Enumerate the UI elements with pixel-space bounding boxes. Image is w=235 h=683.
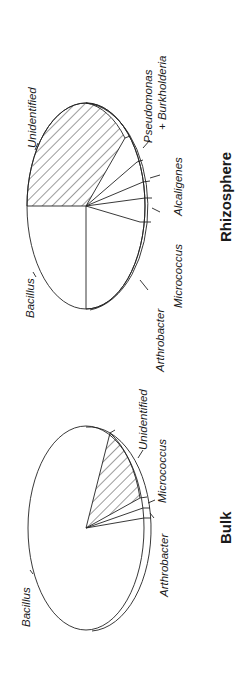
rim-tick (125, 136, 130, 138)
leader-line (150, 175, 160, 178)
bulk-slice-unidentified (86, 433, 140, 528)
rim-tick (143, 181, 150, 182)
leader-line (138, 450, 143, 458)
rhizosphere-slice-unidentified (27, 103, 125, 206)
pie-charts-figure: Unidentified Bacillus Pseudomonas + Burk… (0, 0, 235, 683)
bulk-title: Bulk (217, 511, 234, 544)
rhizosphere-title: Rhizosphere (217, 152, 234, 242)
rhizosphere-label-micrococcus: Micrococcus (172, 244, 184, 308)
rhizosphere-label-burkholderia: + Burkholderia (156, 56, 168, 130)
leader-line (30, 570, 33, 574)
rhizosphere-label-bacillus: Bacillus (24, 278, 36, 318)
rhizosphere-label-arthrobacter: Arthrobacter (154, 308, 166, 373)
rhizosphere-label-alcaligenes: Alcaligenes (172, 157, 184, 217)
bulk-pie: Unidentified Micrococcus Arthrobacter Ba… (20, 389, 234, 631)
rhizosphere-divider-micrococcus-arthrobacter-b (86, 206, 140, 222)
rim-tick (110, 430, 115, 433)
leader-line (152, 208, 160, 212)
bulk-label-unidentified: Unidentified (137, 389, 149, 450)
bulk-label-micrococcus: Micrococcus (156, 439, 168, 503)
rhizosphere-pie: Unidentified Bacillus Pseudomonas + Burk… (24, 56, 234, 373)
bulk-label-arthrobacter: Arthrobacter (158, 533, 170, 598)
leader-line (140, 280, 148, 290)
bulk-label-bacillus: Bacillus (20, 587, 32, 627)
rhizosphere-label-pseudomonas: Pseudomonas (142, 69, 154, 143)
rim-tick (137, 160, 143, 162)
rhizosphere-label-unidentified: Unidentified (26, 87, 38, 148)
leader-line (33, 272, 36, 277)
